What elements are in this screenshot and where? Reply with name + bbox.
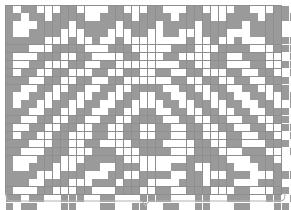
stitch-cell[interactable] [108,163,115,170]
stitch-cell[interactable] [140,124,147,131]
stitch-cell[interactable] [61,45,68,52]
stitch-cell[interactable] [77,61,84,68]
stitch-cell[interactable] [195,6,202,13]
stitch-cell[interactable] [85,69,92,76]
stitch-cell[interactable] [148,53,155,60]
stitch-cell[interactable] [21,53,28,60]
stitch-cell[interactable] [53,108,60,115]
stitch-cell[interactable] [13,124,20,131]
stitch-cell[interactable] [85,85,92,92]
stitch-cell[interactable] [179,179,186,186]
stitch-cell[interactable] [148,45,155,52]
stitch-cell[interactable] [274,77,281,84]
stitch-cell[interactable] [21,92,28,99]
stitch-cell[interactable] [53,29,60,36]
stitch-cell[interactable] [77,92,84,99]
stitch-cell[interactable] [211,116,218,123]
stitch-cell[interactable] [163,92,170,99]
stitch-cell[interactable] [6,61,13,68]
stitch-cell[interactable] [187,6,194,13]
stitch-cell[interactable] [227,37,234,44]
stitch-cell[interactable] [219,92,226,99]
stitch-cell[interactable] [132,108,139,115]
stitch-cell[interactable] [92,92,99,99]
stitch-cell[interactable] [171,132,178,139]
stitch-cell[interactable] [156,61,163,68]
stitch-cell[interactable] [203,6,210,13]
stitch-cell[interactable] [53,21,60,28]
stitch-cell[interactable] [234,148,241,155]
stitch-cell[interactable] [282,6,289,13]
stitch-cell[interactable] [211,179,218,186]
stitch-cell[interactable] [13,85,20,92]
stitch-cell[interactable] [69,116,76,123]
stitch-cell[interactable] [163,45,170,52]
stitch-cell[interactable] [69,45,76,52]
stitch-cell[interactable] [195,140,202,147]
stitch-cell[interactable] [85,37,92,44]
stitch-cell[interactable] [6,45,13,52]
stitch-cell[interactable] [100,156,107,163]
stitch-cell[interactable] [250,100,257,107]
stitch-cell[interactable] [258,140,265,147]
stitch-cell[interactable] [61,61,68,68]
stitch-cell[interactable] [219,77,226,84]
stitch-cell[interactable] [124,132,131,139]
stitch-cell[interactable] [234,77,241,84]
stitch-cell[interactable] [21,69,28,76]
stitch-cell[interactable] [266,156,273,163]
stitch-cell[interactable] [116,108,123,115]
stitch-cell[interactable] [203,61,210,68]
stitch-cell[interactable] [258,163,265,170]
stitch-cell[interactable] [156,37,163,44]
stitch-cell[interactable] [242,29,249,36]
stitch-cell[interactable] [108,13,115,20]
stitch-cell[interactable] [6,6,13,13]
stitch-cell[interactable] [108,108,115,115]
stitch-cell[interactable] [282,156,289,163]
stitch-cell[interactable] [69,37,76,44]
stitch-cell[interactable] [116,21,123,28]
stitch-cell[interactable] [148,77,155,84]
stitch-cell[interactable] [13,29,20,36]
stitch-cell[interactable] [156,108,163,115]
stitch-cell[interactable] [242,61,249,68]
stitch-cell[interactable] [116,140,123,147]
stitch-cell[interactable] [179,69,186,76]
stitch-cell[interactable] [187,29,194,36]
stitch-cell[interactable] [61,108,68,115]
stitch-cell[interactable] [13,13,20,20]
stitch-cell[interactable] [124,108,131,115]
stitch-cell[interactable] [37,21,44,28]
stitch-cell[interactable] [211,21,218,28]
stitch-cell[interactable] [250,37,257,44]
stitch-cell[interactable] [156,85,163,92]
stitch-cell[interactable] [258,124,265,131]
stitch-cell[interactable] [108,61,115,68]
stitch-cell[interactable] [234,21,241,28]
stitch-cell[interactable] [211,61,218,68]
stitch-cell[interactable] [234,132,241,139]
stitch-cell[interactable] [156,6,163,13]
stitch-cell[interactable] [140,45,147,52]
stitch-cell[interactable] [274,69,281,76]
stitch-cell[interactable] [282,116,289,123]
stitch-cell[interactable] [187,116,194,123]
stitch-cell[interactable] [203,179,210,186]
stitch-cell[interactable] [282,13,289,20]
stitch-cell[interactable] [45,13,52,20]
stitch-cell[interactable] [282,29,289,36]
stitch-cell[interactable] [179,156,186,163]
stitch-cell[interactable] [45,108,52,115]
stitch-cell[interactable] [29,13,36,20]
stitch-cell[interactable] [132,124,139,131]
stitch-cell[interactable] [77,100,84,107]
stitch-cell[interactable] [13,108,20,115]
stitch-cell[interactable] [29,45,36,52]
stitch-cell[interactable] [148,37,155,44]
stitch-cell[interactable] [132,100,139,107]
stitch-cell[interactable] [211,6,218,13]
stitch-cell[interactable] [282,85,289,92]
stitch-cell[interactable] [116,85,123,92]
stitch-cell[interactable] [148,140,155,147]
